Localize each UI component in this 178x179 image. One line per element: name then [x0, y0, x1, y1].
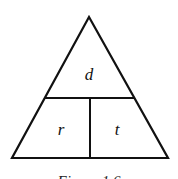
label-t: t	[115, 120, 121, 139]
formula-triangle-diagram: d r t Figure 1.6	[0, 0, 178, 179]
label-d: d	[85, 65, 94, 84]
label-r: r	[58, 120, 65, 139]
figure-caption: Figure 1.6	[57, 173, 121, 179]
